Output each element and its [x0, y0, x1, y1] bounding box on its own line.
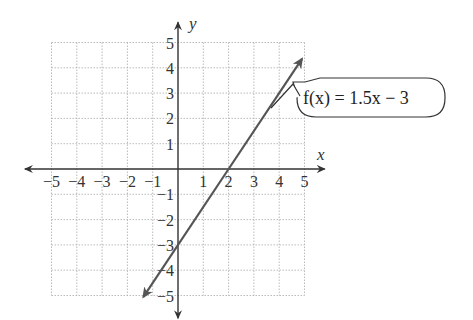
x-tick-label: 2	[225, 173, 233, 190]
x-tick-label: 3	[250, 173, 258, 190]
y-tick-label: 2	[166, 110, 174, 127]
x-tick-label: 5	[301, 173, 309, 190]
x-axis-label: x	[316, 145, 325, 164]
y-tick-label: 3	[166, 85, 174, 102]
x-tick-label: 1	[199, 173, 207, 190]
y-tick-label: −5	[157, 288, 174, 305]
equation-label: f(x) = 1.5x − 3	[303, 88, 409, 109]
y-tick-label: −1	[157, 186, 174, 203]
y-tick-label: 1	[166, 136, 174, 153]
y-tick-label: −3	[157, 237, 174, 254]
y-tick-label: 4	[166, 60, 174, 77]
coordinate-plane: −5−4−3−2−11234554321−1−2−3−4−5 x y f(x) …	[0, 0, 473, 320]
x-tick-label: −4	[68, 173, 85, 190]
y-tick-label: −2	[157, 212, 174, 229]
x-tick-label: 4	[275, 173, 283, 190]
y-axis-label: y	[187, 14, 197, 33]
x-tick-label: −3	[94, 173, 111, 190]
x-tick-label: −5	[43, 173, 60, 190]
equation-callout: f(x) = 1.5x − 3	[271, 78, 445, 117]
y-tick-label: 5	[166, 35, 174, 52]
x-tick-label: −2	[119, 173, 136, 190]
axes	[25, 22, 325, 318]
